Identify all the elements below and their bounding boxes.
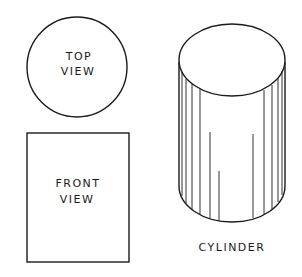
cylinder-label: CYLINDER [199, 241, 266, 254]
top-view: TOP VIEW [27, 17, 127, 117]
front-view-label-line2: VIEW [60, 193, 95, 206]
front-view-label-line1: FRONT [55, 177, 100, 190]
top-view-label-line1: TOP [65, 50, 93, 63]
cylinder-views-diagram: TOP VIEW FRONT VIEW CYLINDER [0, 0, 302, 277]
cylinder-pictorial: CYLINDER [179, 24, 285, 254]
cylinder-top-ellipse [179, 24, 285, 96]
top-view-label-line2: VIEW [61, 65, 96, 78]
front-view: FRONT VIEW [27, 133, 129, 262]
